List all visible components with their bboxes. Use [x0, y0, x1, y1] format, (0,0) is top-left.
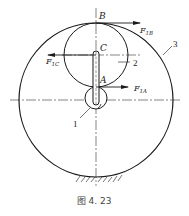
leader-part-1: [80, 108, 90, 118]
point-label-C: C: [100, 43, 107, 53]
mechanism-diagram: B C A F1B F1C F1A 2 3 1 图 4. 23: [0, 0, 189, 216]
leader-part-3: [163, 46, 172, 55]
figure-caption: 图 4. 23: [77, 196, 112, 206]
part-number-3: 3: [173, 39, 178, 49]
force-label-F1A: F1A: [133, 84, 147, 94]
part-number-2: 2: [133, 58, 138, 68]
point-label-A: A: [99, 75, 107, 85]
force-label-F1B: F1B: [139, 26, 153, 36]
part-number-1: 1: [73, 119, 78, 129]
point-label-B: B: [98, 11, 106, 21]
force-label-F1C: F1C: [45, 57, 60, 67]
